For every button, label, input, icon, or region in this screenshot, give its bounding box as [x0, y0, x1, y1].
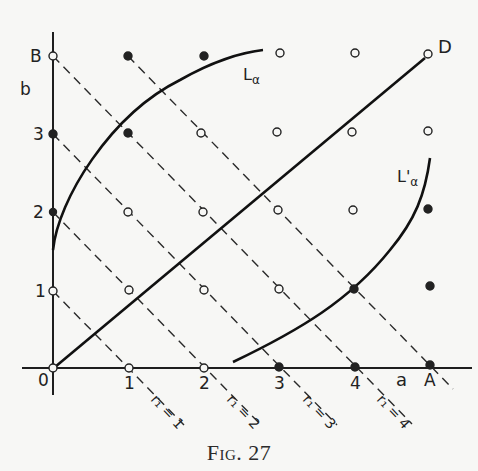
label-a: a	[396, 369, 407, 390]
axes	[22, 32, 472, 395]
point-open	[125, 364, 133, 372]
iso-line-r1-5	[128, 56, 453, 389]
point-open	[275, 285, 283, 293]
label-2: 2	[33, 202, 44, 222]
label-x1: 1	[124, 373, 135, 393]
curve-l-alpha-prime	[233, 158, 430, 362]
point-filled-A	[426, 361, 434, 369]
label-A: A	[424, 370, 436, 390]
label-x4: 4	[350, 373, 361, 393]
point-open	[200, 286, 208, 294]
iso-line-r1-3	[53, 134, 337, 425]
figure-27-diagram: B b 3 2 1 0 1 2 3 4 a A D Lα L'α r₁ = 1 …	[0, 0, 478, 471]
point-filled	[200, 52, 208, 60]
label-r1-1: r₁ = 1	[148, 391, 188, 432]
point-open	[351, 49, 359, 57]
diagonal-od	[55, 58, 425, 367]
labels: B b 3 2 1 0 1 2 3 4 a A D Lα L'α r₁ = 1 …	[20, 36, 452, 432]
point-open-origin	[49, 364, 57, 372]
point-open	[197, 129, 205, 137]
point-open	[49, 52, 57, 60]
point-open	[49, 287, 57, 295]
label-l-alpha-prime: L'α	[397, 167, 418, 189]
point-filled	[124, 129, 132, 137]
label-x3: 3	[274, 373, 285, 393]
point-filled	[275, 363, 283, 371]
label-D: D	[438, 36, 452, 57]
label-0: 0	[38, 370, 49, 390]
label-b: b	[20, 79, 31, 99]
label-r1-2: r₁ = 2	[224, 391, 264, 432]
point-open	[348, 128, 356, 136]
point-filled	[351, 363, 359, 371]
curves	[53, 50, 430, 367]
point-filled	[124, 52, 132, 60]
point-open	[125, 286, 133, 294]
point-open	[424, 50, 432, 58]
point-filled	[424, 205, 432, 213]
point-open	[273, 128, 281, 136]
label-3: 3	[33, 124, 44, 144]
point-filled	[350, 285, 358, 293]
label-x2: 2	[199, 373, 210, 393]
label-r1-4: r₁ = 4	[374, 391, 414, 432]
label-1: 1	[35, 281, 46, 301]
point-open	[424, 127, 432, 135]
label-l-alpha: Lα	[243, 65, 260, 87]
point-filled	[49, 130, 57, 138]
point-filled	[50, 209, 57, 216]
point-open	[349, 206, 357, 214]
point-open	[276, 49, 284, 57]
label-r1-3: r₁ = 3	[300, 391, 340, 432]
label-B: B	[30, 46, 42, 66]
iso-lines	[53, 56, 453, 426]
point-open	[274, 206, 282, 214]
point-open	[124, 208, 132, 216]
figure-caption: Fig. 27	[0, 440, 478, 466]
point-open	[199, 208, 207, 216]
point-open	[200, 364, 208, 372]
point-filled	[426, 282, 434, 290]
